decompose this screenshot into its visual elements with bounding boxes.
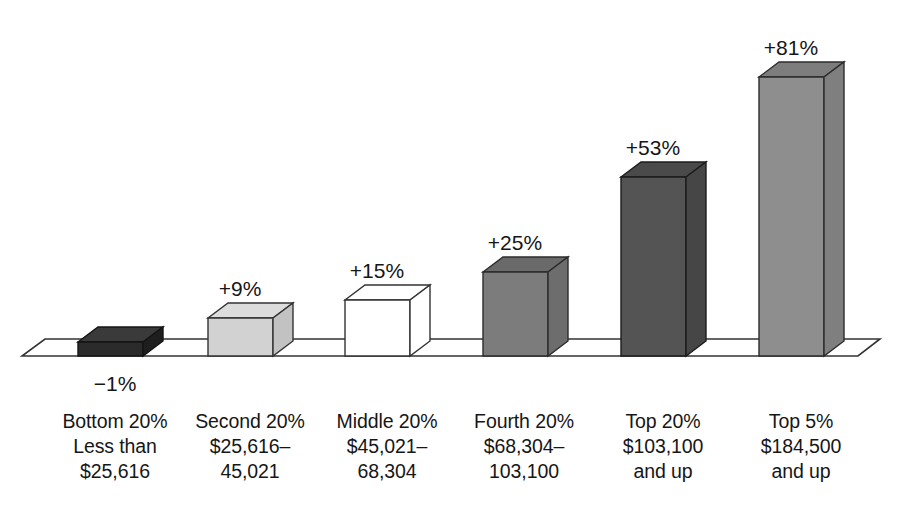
bar-front-face [78,342,143,356]
bar-front-face [208,318,273,356]
bar-bottom-20: −1% [78,327,163,395]
bar-front-face [759,77,824,356]
bar-top-20: +53% [621,136,706,356]
bar-value-label: +81% [764,36,818,59]
category-label-line: and up [711,459,891,484]
bar-front-face [345,300,410,356]
category-label-line: $184,500 [711,434,891,459]
bar-value-label: +9% [219,277,262,300]
bar-side-face [686,162,706,356]
bar-value-label: +25% [488,231,542,254]
bar-front-face [483,272,548,356]
bar-chart: −1% +9% +15% +25% +53% [0,0,902,508]
bar-value-label: −1% [94,372,137,395]
bar-side-face [824,62,844,356]
bar-fourth-20: +25% [483,231,568,356]
bar-second-20: +9% [208,277,293,356]
category-label-top-5: Top 5% $184,500 and up [711,409,891,484]
bar-value-label: +15% [350,259,404,282]
bar-side-face [548,257,568,356]
bar-middle-20: +15% [345,259,430,356]
bar-value-label: +53% [626,136,680,159]
category-label-line: Top 5% [711,409,891,434]
bar-top-5: +81% [759,36,844,356]
bar-front-face [621,177,686,356]
